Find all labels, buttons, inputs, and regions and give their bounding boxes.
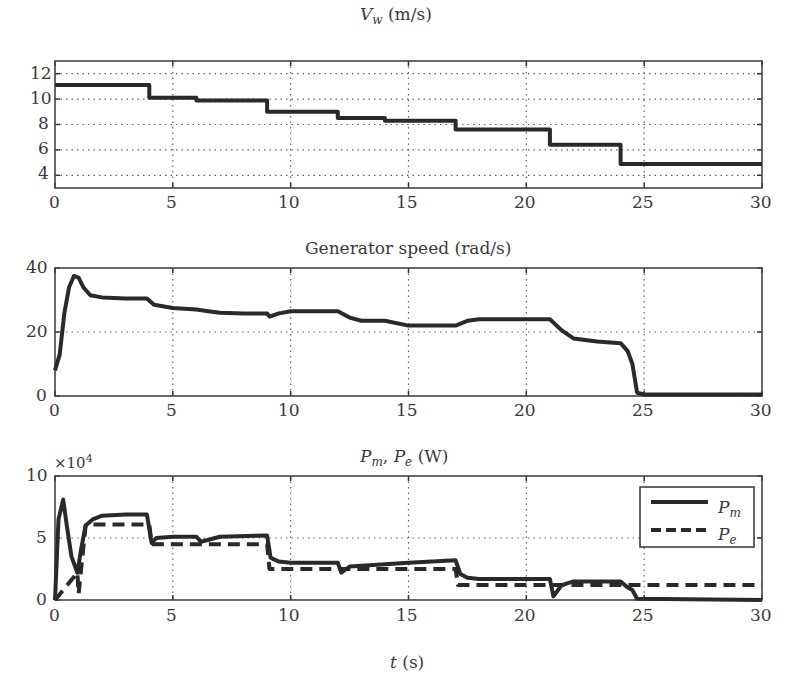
figure: Vw (m/s) Generator speed (rad/s) Pm, Pe … bbox=[0, 0, 798, 694]
legend-label-pe: Pe bbox=[718, 524, 737, 547]
legend-pm-var: P bbox=[718, 497, 729, 517]
legend-pm-sub: m bbox=[729, 506, 740, 520]
plot-canvas bbox=[0, 0, 798, 694]
legend-label-pm: Pm bbox=[718, 497, 741, 520]
legend-pe-sub: e bbox=[729, 533, 736, 547]
legend-pe-var: P bbox=[718, 524, 729, 544]
